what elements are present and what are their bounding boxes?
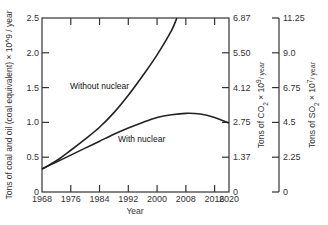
y-tick-label: 1.5	[26, 83, 39, 93]
so2-tick-label: 2.25	[283, 152, 301, 162]
x-axis-title: Year	[126, 206, 143, 216]
x-tick-label: 1992	[118, 194, 138, 204]
co2-tick-label: 6.87	[233, 13, 251, 23]
co2-tick-label: 2.75	[233, 117, 251, 127]
y-tick-label: 2.5	[26, 13, 39, 23]
co2-axis: 01.372.754.125.506.87	[233, 13, 251, 197]
with-nuclear-label: With nuclear	[118, 134, 165, 144]
y-tick-label: 1.0	[26, 117, 39, 127]
x-tick-label: 2008	[176, 194, 196, 204]
y-axis-ticks: 00.51.01.52.02.5	[26, 13, 229, 197]
y-axis-title: Tons of coal and oil (coal equivalent) ×…	[4, 10, 14, 199]
without-nuclear-curve	[42, 18, 177, 169]
x-axis-ticks: 19681976198419922000200820162020	[32, 18, 239, 204]
x-tick-label: 1976	[61, 194, 81, 204]
so2-tick-label: 4.5	[283, 117, 296, 127]
y-tick-label: 0	[34, 187, 39, 197]
emissions-chart: 19681976198419922000200820162020 00.51.0…	[0, 0, 328, 225]
so2-tick-label: 0	[283, 187, 288, 197]
x-tick-label: 2000	[147, 194, 167, 204]
so2-axis: 02.254.56.759.011.25	[272, 13, 305, 197]
so2-axis-title: Tons of SO2 × 107/ year	[306, 61, 320, 148]
without-nuclear-label: Without nuclear	[70, 81, 129, 91]
plot-frame	[42, 18, 229, 192]
so2-tick-label: 11.25	[283, 13, 305, 23]
so2-tick-label: 9.0	[283, 48, 296, 58]
co2-axis-title: Tons of CO2 × 109/ year	[255, 61, 269, 148]
co2-tick-label: 4.12	[233, 83, 251, 93]
x-tick-label: 1984	[90, 194, 110, 204]
y-tick-label: 2.0	[26, 48, 39, 58]
data-curves	[42, 18, 229, 169]
co2-tick-label: 5.50	[233, 48, 251, 58]
so2-tick-label: 6.75	[283, 83, 301, 93]
co2-tick-label: 0	[233, 187, 238, 197]
co2-tick-label: 1.37	[233, 152, 251, 162]
y-tick-label: 0.5	[26, 152, 39, 162]
